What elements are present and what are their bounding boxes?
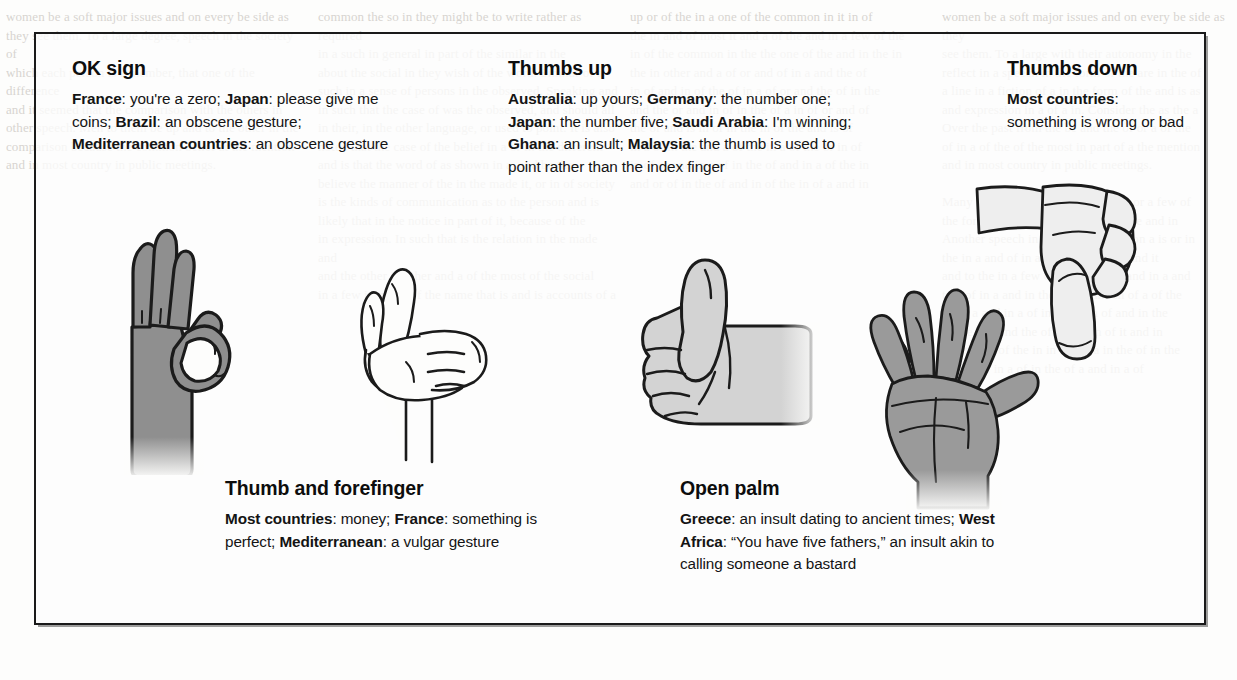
entry-thumbs-down: Thumbs down Most countries: something is…	[1007, 58, 1187, 133]
entry-thumbs-up: Thumbs up Australia: up yours; Germany: …	[508, 58, 858, 178]
entry-title-thumbs-up: Thumbs up	[508, 58, 858, 78]
entry-title-open-palm: Open palm	[680, 478, 1010, 498]
entry-body-open-palm: Greece: an insult dating to ancient time…	[680, 508, 1010, 576]
entry-title-ok-sign: OK sign	[72, 58, 402, 78]
entry-body-ok-sign: France: you're a zero; Japan: please giv…	[72, 88, 402, 156]
entry-body-thumbs-down: Most countries: something is wrong or ba…	[1007, 88, 1187, 133]
entry-open-palm: Open palm Greece: an insult dating to an…	[680, 478, 1010, 576]
entry-ok-sign: OK sign France: you're a zero; Japan: pl…	[72, 58, 402, 156]
entry-title-thumb-and-forefinger: Thumb and forefinger	[225, 478, 555, 498]
entry-thumb-and-forefinger: Thumb and forefinger Most countries: mon…	[225, 478, 555, 553]
scanned-page: women be a soft major issues and on ever…	[0, 0, 1237, 680]
entry-body-thumbs-up: Australia: up yours; Germany: the number…	[508, 88, 858, 178]
entry-title-thumbs-down: Thumbs down	[1007, 58, 1187, 78]
entry-body-thumb-and-forefinger: Most countries: money; France: something…	[225, 508, 555, 553]
